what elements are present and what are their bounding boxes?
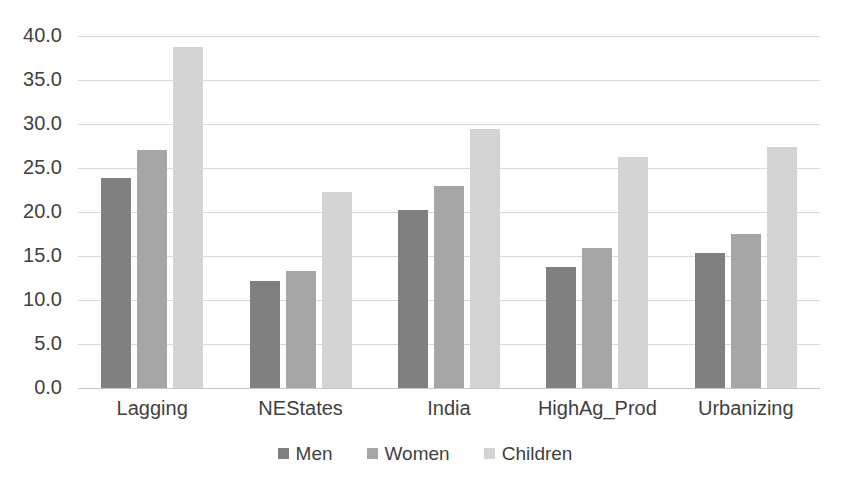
bar-women[interactable]: [434, 186, 464, 388]
bar-men[interactable]: [695, 253, 725, 388]
y-axis-tick-label: 40.0: [23, 25, 62, 45]
bar-group: [523, 36, 671, 388]
bar-group-bars: [523, 36, 671, 388]
bar-women[interactable]: [137, 150, 167, 388]
bar-group: [226, 36, 374, 388]
x-axis-category-label: Lagging: [78, 396, 226, 420]
legend-swatch-icon: [367, 448, 378, 459]
legend-item[interactable]: Men: [278, 444, 333, 463]
chart-legend: MenWomenChildren: [0, 444, 850, 463]
bar-men[interactable]: [250, 281, 280, 388]
y-axis: 40.035.030.025.020.015.010.05.00.0: [0, 0, 70, 484]
bar-group-bars: [375, 36, 523, 388]
bar-children[interactable]: [322, 192, 352, 388]
bar-men[interactable]: [101, 178, 131, 388]
legend-label: Women: [385, 444, 450, 463]
x-axis-category-label: India: [375, 396, 523, 420]
bar-children[interactable]: [618, 157, 648, 388]
gridline: [78, 388, 820, 389]
bar-group-bars: [226, 36, 374, 388]
bar-group-bars: [672, 36, 820, 388]
legend-swatch-icon: [484, 448, 495, 459]
legend-item[interactable]: Children: [484, 444, 573, 463]
y-axis-tick-label: 10.0: [23, 289, 62, 309]
bar-women[interactable]: [286, 271, 316, 388]
bar-men[interactable]: [546, 267, 576, 388]
bar-chart: 40.035.030.025.020.015.010.05.00.0 Laggi…: [0, 0, 850, 484]
bar-children[interactable]: [470, 129, 500, 388]
bar-women[interactable]: [582, 248, 612, 388]
y-axis-tick-label: 35.0: [23, 69, 62, 89]
bar-children[interactable]: [173, 47, 203, 388]
y-axis-tick-label: 15.0: [23, 245, 62, 265]
y-axis-tick-label: 5.0: [34, 333, 62, 353]
legend-swatch-icon: [278, 448, 289, 459]
x-axis-category-label: HighAg_Prod: [523, 396, 671, 420]
bar-men[interactable]: [398, 210, 428, 388]
x-axis-category-label: Urbanizing: [672, 396, 820, 420]
bar-group-bars: [78, 36, 226, 388]
bar-group: [672, 36, 820, 388]
bar-children[interactable]: [767, 147, 797, 388]
bar-group: [78, 36, 226, 388]
legend-label: Children: [502, 444, 573, 463]
y-axis-tick-label: 0.0: [34, 377, 62, 397]
y-axis-tick-label: 20.0: [23, 201, 62, 221]
y-axis-tick-label: 30.0: [23, 113, 62, 133]
bar-women[interactable]: [731, 234, 761, 388]
x-axis-category-label: NEStates: [226, 396, 374, 420]
legend-label: Men: [296, 444, 333, 463]
y-axis-tick-label: 25.0: [23, 157, 62, 177]
bar-group: [375, 36, 523, 388]
legend-item[interactable]: Women: [367, 444, 450, 463]
